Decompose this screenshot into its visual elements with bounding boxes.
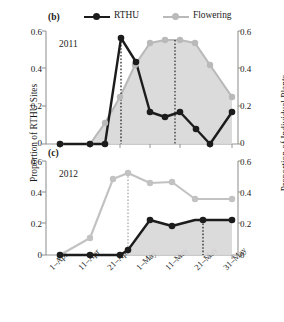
panel-c-plot xyxy=(42,161,242,259)
plot-canvas xyxy=(0,0,284,322)
panel-b-flowering-area xyxy=(60,40,232,144)
panel-c-rthu-area xyxy=(128,220,232,255)
panel-b-plot xyxy=(42,31,242,148)
figure-root: Proportion of RTHU Sites Proportion of I… xyxy=(0,0,284,322)
